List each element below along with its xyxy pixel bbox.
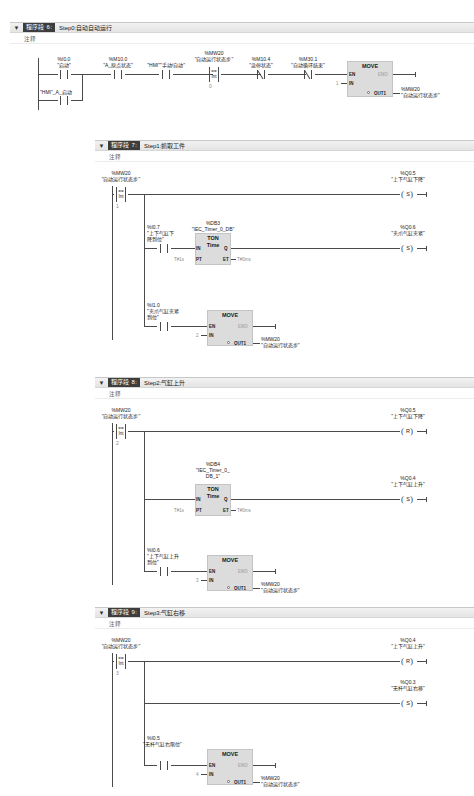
contact-nc-m104[interactable]	[254, 70, 268, 79]
move-in-value: 2	[196, 333, 199, 338]
network-6-body: %I0.0 "启动" "HMI"_A_启动 %M10.0 "A_原点状态" "H…	[10, 44, 474, 119]
network-7-header[interactable]: ▼ 程序段7: Step1:抓取工件	[95, 140, 474, 151]
contact-2-name: "A_原点状态"	[96, 62, 140, 68]
coil-paren-right: )	[410, 426, 413, 437]
network-9-colon: :	[135, 609, 137, 615]
move-in-pin: IN	[209, 333, 214, 338]
network-9-comment[interactable]: 注释	[95, 618, 474, 629]
compare-type: Int	[117, 431, 125, 436]
contact-no-hmi-auto[interactable]	[159, 70, 173, 79]
coil-reset-q04[interactable]: ( R )	[399, 656, 417, 667]
compare-name: "自动运行状态步"	[95, 643, 147, 649]
move-eno-pin: ENO	[238, 569, 248, 574]
move-block-title: MOVE	[348, 62, 392, 70]
chevron-down-icon[interactable]: ▼	[12, 23, 21, 32]
coil-reset-q05[interactable]: ( R )	[399, 426, 417, 437]
contact-1-name: "启动"	[44, 62, 84, 68]
contact-no-i10[interactable]	[157, 322, 171, 331]
network-7-title: Step1:抓取工件	[144, 141, 474, 150]
move-out1-dot	[227, 586, 230, 589]
compare-value: 2	[116, 440, 119, 446]
network-7-tag: 程序段7:	[108, 141, 140, 150]
move-block-title: MOVE	[208, 311, 252, 319]
wire	[341, 83, 347, 84]
contact-no-i05[interactable]	[157, 761, 171, 770]
contact-no-hmi-a-start[interactable]	[57, 96, 71, 105]
move-en-pin: EN	[209, 569, 215, 574]
ton-in-pin: IN	[196, 497, 201, 502]
wire	[231, 259, 236, 260]
rung-end	[426, 497, 427, 502]
chevron-down-icon[interactable]: ▼	[97, 378, 106, 387]
network-7-body: %MW20 "自动运行状态步" == Int 1 %Q0.5 "上下气缸下降" …	[95, 162, 474, 352]
rung-end	[426, 246, 427, 251]
coil-set-q05[interactable]: ( S )	[399, 189, 417, 200]
compare-name: "自动运行状态步"	[95, 176, 147, 182]
rung-end	[426, 192, 427, 197]
coil-set-q04[interactable]: ( S )	[399, 494, 417, 505]
coil-set-q06[interactable]: ( S )	[399, 243, 417, 254]
move-out1-dot	[227, 780, 230, 783]
network-6-tag-label: 程序段	[26, 24, 45, 30]
compare-value: 0	[209, 83, 212, 89]
network-8-colon: :	[135, 379, 137, 385]
compare-equal-int[interactable]: == Int	[114, 654, 128, 669]
move-in-pin: IN	[209, 772, 214, 777]
network-8-header[interactable]: ▼ 程序段8: Step2:气缸上升	[95, 377, 474, 388]
rung-end	[426, 701, 427, 706]
compare-type: Int	[117, 661, 125, 666]
rung-end	[275, 763, 276, 768]
network-6-header[interactable]: ▼ 程序段6: Step0:自动自动运行	[10, 22, 474, 33]
contact-6-name: "自动循环结束"	[286, 62, 330, 68]
network-7-comment[interactable]: 注释	[95, 151, 474, 162]
wire	[417, 703, 426, 704]
chevron-down-icon[interactable]: ▼	[97, 141, 106, 150]
ton-et-pin: ET	[223, 508, 229, 513]
network-6-comment[interactable]: 注释	[10, 33, 474, 44]
ton-et-value: T#0ms	[237, 257, 251, 262]
wire	[315, 74, 347, 75]
timer-db-name: "IEC_Timer_0_DB"	[185, 226, 241, 232]
wire	[417, 499, 426, 500]
coil-letter: R	[399, 656, 417, 667]
compare-equal-int[interactable]: == Int	[114, 424, 128, 439]
power-rail	[112, 186, 113, 340]
timer-db-name-line2: DB_1"	[187, 473, 239, 479]
contact-no-m100[interactable]	[111, 70, 125, 79]
network-7-tag-label: 程序段	[111, 142, 130, 148]
wire	[253, 782, 260, 783]
wire	[171, 326, 207, 327]
compare-name: "自动运行状态步"	[95, 413, 147, 419]
contact-5-name: "急停状态"	[241, 62, 281, 68]
contact-no-i06[interactable]	[157, 567, 171, 576]
contact-3-name: "手动/自动"	[160, 62, 192, 68]
wire	[417, 194, 426, 195]
contact-nc-m301[interactable]	[301, 70, 315, 79]
wire	[144, 703, 400, 704]
network-8-body: %MW20 "自动运行状态步" == Int 2 %Q0.5 "上下气缸下降" …	[95, 399, 474, 599]
branch-contact-addr: "HMI"_A_启动	[40, 89, 90, 95]
coil-letter: S	[399, 698, 417, 709]
network-8-comment[interactable]: 注释	[95, 388, 474, 399]
wire	[253, 326, 275, 327]
chevron-down-icon[interactable]: ▼	[97, 608, 106, 617]
ton-pt-pin: PT	[196, 257, 202, 262]
network-9-header[interactable]: ▼ 程序段9: Step3:气缸右移	[95, 607, 474, 618]
rung-end	[415, 72, 416, 77]
contact-no-i00[interactable]	[57, 70, 71, 79]
coil-set-q03[interactable]: ( S )	[399, 698, 417, 709]
move-out1-pin: OUT1	[234, 341, 246, 346]
network-9-body: %MW20 "自动运行状态步" == Int 3 %Q0.4 "上下气缸上升" …	[95, 629, 474, 794]
wire	[201, 580, 207, 581]
branch-wire	[82, 74, 83, 100]
compare-equal-int[interactable]: == Int	[114, 187, 128, 202]
move-block[interactable]: MOVE	[347, 61, 393, 97]
move-eno-pin: ENO	[378, 72, 388, 77]
wire	[253, 765, 275, 766]
compare-equal-int[interactable]: == Int	[207, 67, 221, 82]
power-rail	[38, 58, 39, 110]
ton-pt-pin: PT	[196, 508, 202, 513]
contact-no-i07[interactable]	[157, 244, 171, 253]
wire	[128, 431, 400, 432]
ton-q-pin: Q	[224, 497, 228, 502]
